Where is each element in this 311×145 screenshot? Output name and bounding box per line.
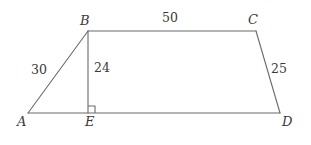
length-label-ab: 30	[31, 64, 47, 77]
vertex-label-d: D	[282, 115, 292, 128]
length-label-bc: 50	[162, 12, 178, 25]
geometry-figure: A B C D E 30 24 50 25	[0, 0, 311, 145]
length-label-cd: 25	[271, 63, 287, 76]
vertex-label-a: A	[17, 115, 26, 128]
right-angle-marker-icon	[88, 106, 95, 113]
vertex-label-e: E	[85, 115, 95, 128]
length-label-be: 24	[94, 62, 110, 75]
vertex-label-b: B	[80, 14, 90, 27]
vertex-label-c: C	[248, 13, 258, 26]
